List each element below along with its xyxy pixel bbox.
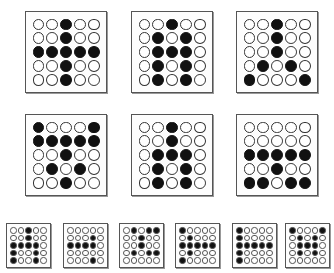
empty-circle-icon [297, 257, 303, 263]
empty-circle-icon [251, 257, 257, 263]
filled-circle-icon [146, 227, 152, 233]
filled-circle-icon [166, 46, 178, 58]
filled-circle-icon [319, 227, 325, 233]
empty-circle-icon [88, 177, 100, 189]
filled-circle-icon [90, 257, 96, 263]
empty-circle-icon [40, 242, 46, 248]
empty-circle-icon [180, 135, 192, 147]
empty-circle-icon [194, 177, 206, 189]
empty-circle-icon [271, 135, 283, 147]
filled-circle-icon [60, 149, 72, 161]
empty-circle-icon [271, 122, 283, 134]
filled-circle-icon [74, 135, 86, 147]
filled-circle-icon [153, 227, 159, 233]
empty-circle-icon [180, 19, 192, 31]
empty-circle-icon [289, 242, 295, 248]
empty-circle-icon [75, 227, 81, 233]
empty-circle-icon [88, 163, 100, 175]
filled-circle-icon [187, 235, 193, 241]
empty-circle-icon [194, 19, 206, 31]
empty-circle-icon [194, 250, 200, 256]
filled-circle-icon [297, 242, 303, 248]
empty-circle-icon [266, 250, 272, 256]
filled-circle-icon [10, 257, 16, 263]
filled-circle-icon [202, 242, 208, 248]
empty-circle-icon [97, 257, 103, 263]
empty-circle-icon [139, 122, 151, 134]
empty-circle-icon [18, 227, 24, 233]
empty-circle-icon [88, 32, 100, 44]
empty-circle-icon [18, 235, 24, 241]
empty-circle-icon [146, 257, 152, 263]
empty-circle-icon [194, 46, 206, 58]
filled-circle-icon [60, 46, 72, 58]
filled-circle-icon [236, 257, 242, 263]
empty-circle-icon [266, 257, 272, 263]
empty-circle-icon [74, 19, 86, 31]
filled-circle-icon [60, 177, 72, 189]
empty-circle-icon [131, 257, 137, 263]
empty-circle-icon [319, 235, 325, 241]
filled-circle-icon [251, 242, 257, 248]
empty-circle-icon [46, 74, 58, 86]
empty-circle-icon [259, 250, 265, 256]
empty-circle-icon [25, 257, 31, 263]
empty-circle-icon [123, 257, 129, 263]
filled-circle-icon [152, 149, 164, 161]
empty-circle-icon [297, 227, 303, 233]
empty-circle-icon [202, 250, 208, 256]
empty-circle-icon [152, 19, 164, 31]
empty-circle-icon [285, 32, 297, 44]
empty-circle-icon [146, 242, 152, 248]
filled-circle-icon [180, 60, 192, 72]
empty-circle-icon [139, 163, 151, 175]
empty-circle-icon [299, 19, 311, 31]
empty-circle-icon [285, 46, 297, 58]
empty-circle-icon [153, 257, 159, 263]
empty-circle-icon [202, 227, 208, 233]
filled-circle-icon [299, 177, 311, 189]
filled-circle-icon [312, 250, 318, 256]
empty-circle-icon [289, 235, 295, 241]
empty-circle-icon [46, 122, 58, 134]
filled-circle-icon [25, 227, 31, 233]
filled-circle-icon [88, 135, 100, 147]
large-grid-g5 [131, 114, 213, 196]
filled-circle-icon [257, 60, 269, 72]
empty-circle-icon [46, 177, 58, 189]
empty-circle-icon [304, 227, 310, 233]
filled-circle-icon [131, 227, 137, 233]
empty-circle-icon [33, 19, 45, 31]
empty-circle-icon [33, 74, 45, 86]
empty-circle-icon [271, 177, 283, 189]
empty-circle-icon [33, 177, 45, 189]
filled-circle-icon [152, 32, 164, 44]
empty-circle-icon [244, 250, 250, 256]
small-grid-s5 [232, 223, 277, 268]
filled-circle-icon [244, 149, 256, 161]
filled-circle-icon [75, 242, 81, 248]
empty-circle-icon [312, 257, 318, 263]
filled-circle-icon [244, 177, 256, 189]
empty-circle-icon [60, 163, 72, 175]
empty-circle-icon [179, 250, 185, 256]
filled-circle-icon [33, 250, 39, 256]
empty-circle-icon [67, 235, 73, 241]
filled-circle-icon [46, 46, 58, 58]
empty-circle-icon [90, 250, 96, 256]
empty-circle-icon [46, 19, 58, 31]
filled-circle-icon [297, 235, 303, 241]
empty-circle-icon [187, 227, 193, 233]
empty-circle-icon [244, 19, 256, 31]
filled-circle-icon [180, 149, 192, 161]
empty-circle-icon [18, 257, 24, 263]
filled-circle-icon [33, 46, 45, 58]
empty-circle-icon [40, 250, 46, 256]
empty-circle-icon [187, 257, 193, 263]
filled-circle-icon [187, 242, 193, 248]
filled-circle-icon [299, 74, 311, 86]
filled-circle-icon [152, 163, 164, 175]
empty-circle-icon [194, 227, 200, 233]
empty-circle-icon [131, 235, 137, 241]
empty-circle-icon [179, 235, 185, 241]
